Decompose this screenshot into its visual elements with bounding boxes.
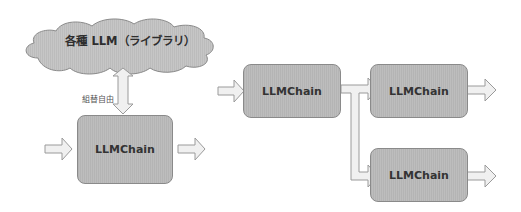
chain2-output-arrow-icon	[467, 79, 496, 101]
chain-3-label: LLMChain	[389, 169, 449, 182]
diagram-canvas: 各種 LLM（ライブラリ） 組替自由 LLMChain LLMChain LLM…	[0, 0, 521, 212]
left-llmchain-box: LLMChain	[77, 115, 173, 184]
output-arrow-icon	[178, 138, 205, 160]
llm-cloud-label: 各種 LLM（ライブラリ）	[40, 32, 220, 48]
chain-3-box: LLMChain	[370, 148, 468, 202]
chain-input-arrow-icon	[218, 80, 244, 102]
swap-double-arrow-icon	[113, 68, 133, 114]
left-llmchain-label: LLMChain	[95, 143, 155, 156]
chain-2-box: LLMChain	[370, 64, 468, 118]
input-arrow-icon	[45, 138, 72, 160]
swap-freely-label: 組替自由	[82, 93, 114, 104]
chain-1-box: LLMChain	[243, 64, 341, 118]
chain3-output-arrow-icon	[467, 165, 496, 187]
chain-1-label: LLMChain	[262, 85, 322, 98]
chain-2-label: LLMChain	[389, 85, 449, 98]
